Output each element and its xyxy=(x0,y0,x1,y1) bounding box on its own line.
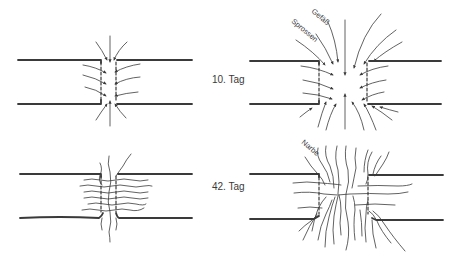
label-day-42: 42. Tag xyxy=(212,181,245,192)
vessel-walls xyxy=(250,61,441,104)
vessel-walls xyxy=(250,174,443,220)
label-vessel: Gefäß xyxy=(310,7,332,28)
vessel-walls xyxy=(18,60,192,104)
panel-bottom-left xyxy=(20,154,192,242)
inward-arrows xyxy=(83,36,140,126)
scar-fibers xyxy=(293,146,412,251)
wavy-fibers xyxy=(80,154,152,242)
panel-top-right: Gefäß Sprossen xyxy=(250,7,441,130)
diagram-canvas: Gefäß Sprossen xyxy=(0,0,462,263)
label-sprouts: Sprossen xyxy=(290,17,320,44)
label-day-10: 10. Tag xyxy=(212,74,245,85)
panel-bottom-right: Narbe xyxy=(250,138,443,251)
panel-top-left xyxy=(18,36,192,126)
